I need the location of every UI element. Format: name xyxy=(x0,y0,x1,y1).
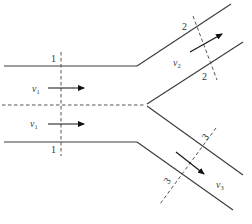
upper-branch-inner-wall xyxy=(147,42,243,104)
pipe-bifurcation-diagram: 1 1 2 2 3 3 v1 v1 v2 v3 xyxy=(0,0,252,224)
lower-branch-inner-wall xyxy=(147,106,243,175)
v2-arrow xyxy=(190,34,222,52)
v1-upper-label: v1 xyxy=(32,83,40,95)
section-1-label-bottom: 1 xyxy=(51,144,56,155)
v3-arrow xyxy=(176,152,204,174)
v3-label: v3 xyxy=(216,179,224,191)
v2-label: v2 xyxy=(173,57,181,69)
section-3-label-top: 3 xyxy=(199,131,211,141)
section-2-label-bottom: 2 xyxy=(202,71,207,82)
v1-lower-label: v1 xyxy=(30,118,38,130)
lower-branch-outer-wall xyxy=(137,142,233,210)
section-2-label-top: 2 xyxy=(182,21,187,32)
section-1-label-top: 1 xyxy=(51,53,56,64)
upper-branch-outer-wall xyxy=(137,4,231,66)
section-3-label-bottom: 3 xyxy=(161,175,173,185)
